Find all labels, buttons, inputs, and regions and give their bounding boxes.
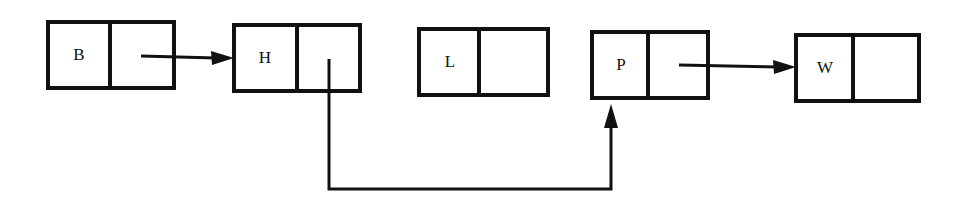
node-h: H — [234, 25, 360, 91]
node-h-label: H — [259, 48, 271, 67]
node-l-label: L — [445, 52, 455, 71]
node-l: L — [419, 29, 548, 95]
arrowhead-icon — [211, 51, 234, 65]
edge-p-w-line — [679, 65, 778, 67]
node-p-label: P — [616, 55, 625, 74]
node-b-label: B — [73, 45, 84, 64]
arrowhead-icon — [773, 60, 796, 74]
arrowhead-icon — [604, 104, 618, 128]
edge-b-h-line — [141, 56, 216, 58]
linked-list-diagram: B H L P W — [0, 0, 970, 210]
node-w: W — [796, 35, 919, 101]
node-l-box — [419, 29, 548, 95]
node-w-box — [796, 35, 919, 101]
node-w-label: W — [817, 58, 834, 77]
